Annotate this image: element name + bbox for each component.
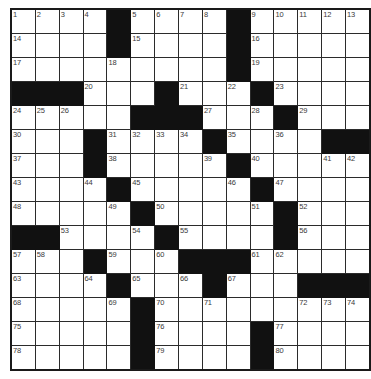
crossword-cell[interactable]: 36	[274, 130, 298, 154]
crossword-cell[interactable]	[83, 322, 107, 346]
crossword-cell[interactable]	[322, 346, 346, 371]
crossword-cell[interactable]: 77	[274, 322, 298, 346]
crossword-cell[interactable]	[59, 58, 83, 82]
crossword-cell[interactable]	[298, 82, 322, 106]
crossword-cell[interactable]	[107, 346, 131, 371]
crossword-cell[interactable]	[202, 58, 226, 82]
crossword-cell[interactable]: 29	[298, 106, 322, 130]
crossword-cell[interactable]	[346, 58, 370, 82]
crossword-cell[interactable]: 25	[35, 106, 59, 130]
crossword-cell[interactable]: 54	[131, 226, 155, 250]
crossword-cell[interactable]: 6	[155, 9, 179, 34]
crossword-cell[interactable]: 5	[131, 9, 155, 34]
crossword-cell[interactable]	[274, 58, 298, 82]
crossword-cell[interactable]	[274, 34, 298, 58]
crossword-cell[interactable]: 49	[107, 202, 131, 226]
crossword-cell[interactable]: 1	[11, 9, 35, 34]
crossword-cell[interactable]	[83, 34, 107, 58]
crossword-cell[interactable]	[179, 298, 203, 322]
crossword-cell[interactable]	[346, 34, 370, 58]
crossword-cell[interactable]: 56	[298, 226, 322, 250]
crossword-cell[interactable]	[202, 202, 226, 226]
crossword-cell[interactable]	[202, 346, 226, 371]
crossword-cell[interactable]: 31	[107, 130, 131, 154]
crossword-cell[interactable]	[155, 154, 179, 178]
crossword-cell[interactable]	[83, 298, 107, 322]
crossword-cell[interactable]: 61	[250, 250, 274, 274]
crossword-cell[interactable]: 42	[346, 154, 370, 178]
crossword-cell[interactable]	[59, 178, 83, 202]
crossword-cell[interactable]: 71	[202, 298, 226, 322]
crossword-cell[interactable]: 51	[250, 202, 274, 226]
crossword-cell[interactable]	[35, 34, 59, 58]
crossword-cell[interactable]	[346, 346, 370, 371]
crossword-cell[interactable]	[346, 226, 370, 250]
crossword-cell[interactable]	[346, 178, 370, 202]
crossword-cell[interactable]	[59, 34, 83, 58]
crossword-cell[interactable]	[179, 58, 203, 82]
crossword-cell[interactable]: 43	[11, 178, 35, 202]
crossword-cell[interactable]: 3	[59, 9, 83, 34]
crossword-cell[interactable]	[179, 34, 203, 58]
crossword-cell[interactable]	[298, 34, 322, 58]
crossword-cell[interactable]	[226, 202, 250, 226]
crossword-cell[interactable]	[59, 274, 83, 298]
crossword-cell[interactable]: 28	[250, 106, 274, 130]
crossword-cell[interactable]	[346, 106, 370, 130]
crossword-cell[interactable]	[322, 82, 346, 106]
crossword-cell[interactable]	[226, 226, 250, 250]
crossword-cell[interactable]: 65	[131, 274, 155, 298]
crossword-cell[interactable]	[274, 298, 298, 322]
crossword-cell[interactable]: 21	[179, 82, 203, 106]
crossword-cell[interactable]: 72	[298, 298, 322, 322]
crossword-cell[interactable]	[346, 322, 370, 346]
crossword-cell[interactable]	[59, 346, 83, 371]
crossword-cell[interactable]	[274, 154, 298, 178]
crossword-cell[interactable]: 23	[274, 82, 298, 106]
crossword-cell[interactable]	[131, 154, 155, 178]
crossword-cell[interactable]: 80	[274, 346, 298, 371]
crossword-cell[interactable]	[59, 154, 83, 178]
crossword-cell[interactable]: 22	[226, 82, 250, 106]
crossword-cell[interactable]: 50	[155, 202, 179, 226]
crossword-cell[interactable]	[59, 250, 83, 274]
crossword-cell[interactable]: 76	[155, 322, 179, 346]
crossword-cell[interactable]: 15	[131, 34, 155, 58]
crossword-cell[interactable]	[179, 202, 203, 226]
crossword-cell[interactable]	[346, 202, 370, 226]
crossword-cell[interactable]: 17	[11, 58, 35, 82]
crossword-cell[interactable]	[322, 34, 346, 58]
crossword-cell[interactable]: 66	[179, 274, 203, 298]
crossword-cell[interactable]	[179, 322, 203, 346]
crossword-cell[interactable]	[83, 346, 107, 371]
crossword-cell[interactable]	[202, 226, 226, 250]
crossword-cell[interactable]	[298, 250, 322, 274]
crossword-cell[interactable]	[298, 154, 322, 178]
crossword-cell[interactable]: 55	[179, 226, 203, 250]
crossword-cell[interactable]	[35, 178, 59, 202]
crossword-cell[interactable]	[298, 346, 322, 371]
crossword-cell[interactable]	[202, 82, 226, 106]
crossword-cell[interactable]: 26	[59, 106, 83, 130]
crossword-cell[interactable]	[322, 226, 346, 250]
crossword-cell[interactable]: 30	[11, 130, 35, 154]
crossword-cell[interactable]	[35, 298, 59, 322]
crossword-cell[interactable]: 37	[11, 154, 35, 178]
crossword-cell[interactable]	[226, 298, 250, 322]
crossword-cell[interactable]: 35	[226, 130, 250, 154]
crossword-cell[interactable]	[35, 346, 59, 371]
crossword-cell[interactable]	[250, 130, 274, 154]
crossword-cell[interactable]	[346, 250, 370, 274]
crossword-cell[interactable]: 60	[155, 250, 179, 274]
crossword-cell[interactable]	[107, 82, 131, 106]
crossword-cell[interactable]	[107, 106, 131, 130]
crossword-cell[interactable]: 52	[298, 202, 322, 226]
crossword-cell[interactable]	[179, 346, 203, 371]
crossword-cell[interactable]: 27	[202, 106, 226, 130]
crossword-cell[interactable]: 33	[155, 130, 179, 154]
crossword-cell[interactable]	[179, 154, 203, 178]
crossword-cell[interactable]	[155, 58, 179, 82]
crossword-cell[interactable]	[179, 178, 203, 202]
crossword-cell[interactable]: 70	[155, 298, 179, 322]
crossword-cell[interactable]	[35, 202, 59, 226]
